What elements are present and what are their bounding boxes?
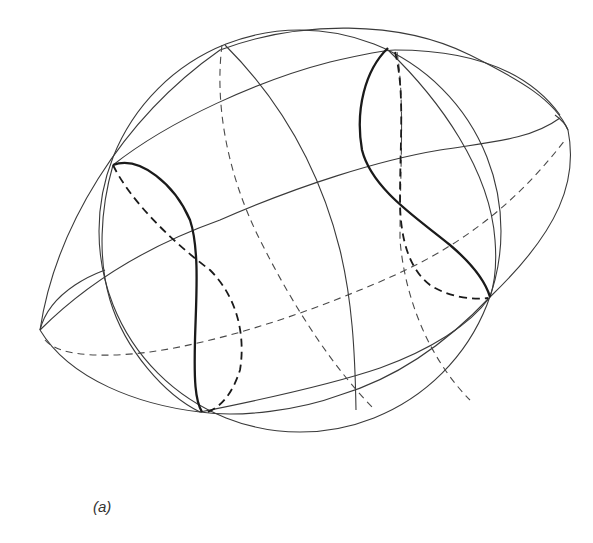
ellipsoid-equator-back	[45, 140, 565, 355]
sphere-outline	[99, 30, 501, 432]
ellipsoid-outline-bottom	[40, 130, 571, 414]
sphere-ellipsoid-intersection-diagram	[0, 0, 593, 543]
ellipsoid-right-cusp-edge	[555, 115, 568, 130]
intersection-curve-left-back	[113, 165, 242, 413]
sphere-meridian-back-left	[220, 45, 375, 410]
intersection-curve-left-front	[113, 163, 202, 412]
sphere-meridian-front-center	[225, 45, 356, 410]
ellipsoid-outline-top	[40, 28, 568, 330]
sphere-meridian-front-right	[388, 50, 496, 297]
figure-caption: (a)	[93, 498, 111, 515]
sphere-meridian-front-left	[102, 165, 200, 412]
ellipsoid-latitude-lower	[200, 297, 490, 412]
